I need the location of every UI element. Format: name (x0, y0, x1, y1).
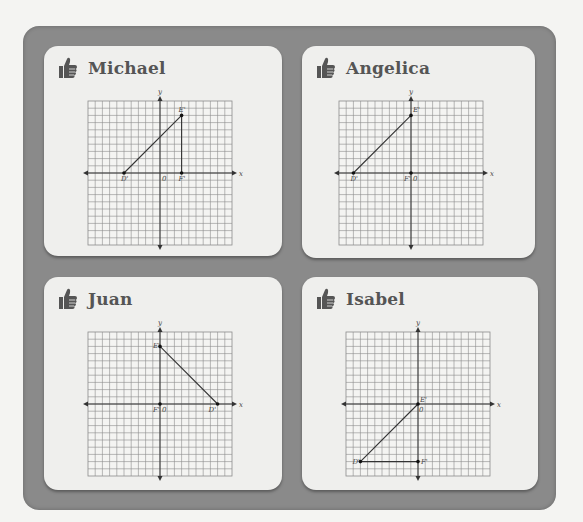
card-michael: Michael xy0D'E'F' (44, 46, 282, 256)
svg-text:E': E' (412, 106, 420, 114)
svg-text:F': F' (420, 458, 428, 466)
svg-text:0: 0 (162, 406, 167, 414)
svg-text:E': E' (178, 106, 186, 114)
card-isabel: Isabel xy0E'D'F' (302, 277, 538, 490)
svg-text:y: y (415, 319, 421, 327)
svg-text:0: 0 (413, 175, 418, 183)
svg-text:x: x (239, 170, 243, 178)
student-name: Isabel (346, 289, 405, 309)
coordinate-graph: xy0D'E'F' (88, 101, 232, 245)
svg-text:y: y (157, 319, 163, 327)
svg-text:y: y (408, 88, 414, 96)
thumbs-up-icon (56, 287, 78, 311)
grid-svg: xy0D'E'F' (88, 101, 232, 245)
svg-text:D': D' (349, 175, 358, 183)
svg-text:F': F' (403, 175, 411, 183)
grid-svg: xy0D'E'F' (339, 101, 483, 245)
svg-text:x: x (239, 401, 243, 409)
svg-text:D': D' (120, 175, 129, 183)
svg-text:E': E' (152, 342, 160, 350)
student-name: Juan (88, 289, 133, 309)
grid-svg: xy0E'F'D' (88, 332, 232, 476)
svg-text:D': D' (351, 458, 360, 466)
coordinate-graph: xy0E'F'D' (88, 332, 232, 476)
card-header: Juan (56, 287, 133, 311)
svg-text:D': D' (208, 406, 217, 414)
svg-text:F': F' (152, 406, 160, 414)
thumbs-up-icon (56, 56, 78, 80)
svg-text:x: x (497, 401, 501, 409)
student-name: Michael (88, 58, 166, 78)
thumbs-up-icon (314, 287, 336, 311)
svg-text:F': F' (178, 175, 186, 183)
card-header: Michael (56, 56, 166, 80)
coordinate-graph: xy0E'D'F' (346, 332, 490, 476)
coordinate-graph: xy0D'E'F' (339, 101, 483, 245)
student-name: Angelica (346, 58, 430, 78)
card-header: Angelica (314, 56, 430, 80)
card-juan: Juan xy0E'F'D' (44, 277, 282, 490)
card-header: Isabel (314, 287, 405, 311)
svg-text:0: 0 (419, 406, 424, 414)
svg-text:y: y (157, 88, 163, 96)
svg-text:0: 0 (162, 175, 167, 183)
thumbs-up-icon (314, 56, 336, 80)
svg-text:x: x (490, 170, 494, 178)
svg-text:E': E' (419, 396, 427, 404)
grid-svg: xy0E'D'F' (346, 332, 490, 476)
card-angelica: Angelica xy0D'E'F' (302, 46, 535, 258)
